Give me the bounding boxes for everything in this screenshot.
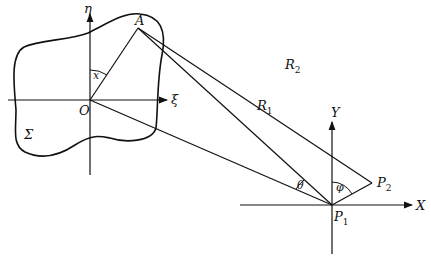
point-A-label: A bbox=[135, 14, 144, 27]
R1-label: R1 bbox=[257, 99, 273, 116]
angle-theta-label: θ bbox=[297, 180, 304, 191]
point-P1-label: P1 bbox=[334, 210, 348, 227]
R2-text: R bbox=[285, 57, 295, 72]
point-P2-label: P2 bbox=[377, 176, 391, 193]
point-O-label: O bbox=[79, 104, 90, 117]
R2-label: R2 bbox=[285, 58, 301, 75]
P1-subscript: 1 bbox=[343, 217, 349, 227]
R1-text: R bbox=[257, 98, 267, 113]
diagram-svg bbox=[0, 0, 431, 259]
line-OP1 bbox=[90, 100, 332, 205]
P2-text: P bbox=[377, 175, 386, 190]
angle-x-label: x bbox=[93, 70, 99, 81]
R1-subscript: 1 bbox=[267, 106, 273, 116]
P2-subscript: 2 bbox=[386, 183, 392, 193]
line-OA bbox=[90, 28, 138, 100]
eta-label: η bbox=[84, 2, 92, 15]
angle-phi-label: φ bbox=[336, 182, 344, 193]
R2-subscript: 2 bbox=[295, 65, 301, 75]
sigma-label: Σ bbox=[24, 128, 33, 141]
P1-text: P bbox=[334, 209, 343, 224]
xi-label: ξ bbox=[171, 93, 178, 106]
sigma-surface bbox=[14, 14, 164, 156]
diagram-canvas: η ξ A O x Σ R1 R2 θ φ Y X P1 P2 bbox=[0, 0, 431, 259]
Y-axis-label: Y bbox=[331, 106, 340, 119]
X-axis-label: X bbox=[416, 199, 425, 212]
